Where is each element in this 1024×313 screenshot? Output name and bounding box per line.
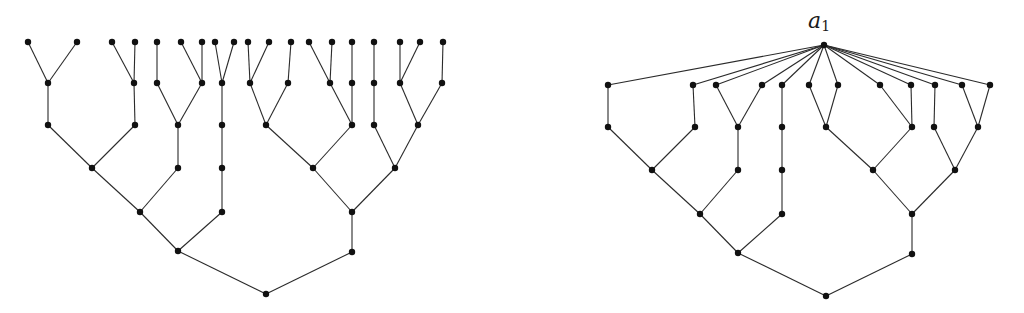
tree-node: [909, 211, 915, 217]
tree-edge: [222, 42, 234, 83]
tree-edge: [912, 170, 955, 214]
tree-edge: [700, 214, 738, 253]
tree-edge: [824, 45, 911, 85]
tree-node: [231, 39, 237, 45]
tree-edge: [716, 45, 824, 85]
tree-edge: [330, 42, 332, 83]
tree-diagram-canvas: [0, 0, 1024, 313]
tree-edge: [738, 253, 826, 296]
tree-edge: [266, 252, 352, 294]
tree-edge: [824, 45, 990, 85]
tree-node: [154, 39, 160, 45]
tree-edge: [608, 127, 652, 170]
tree-node: [89, 165, 95, 171]
tree-node: [175, 122, 181, 128]
tree-edge: [826, 254, 912, 296]
tree-node: [247, 80, 253, 86]
tree-edge: [313, 125, 352, 168]
tree-node: [349, 209, 355, 215]
tree-node: [932, 82, 938, 88]
tree-node: [310, 165, 316, 171]
tree-node: [823, 124, 829, 130]
root-label-letter: a: [808, 8, 821, 33]
tree-edge: [824, 45, 935, 85]
tree-node: [371, 39, 377, 45]
tree-node: [285, 80, 291, 86]
tree-edge: [955, 127, 978, 170]
tree-node: [263, 122, 269, 128]
tree-node: [779, 82, 785, 88]
root-label-a1: a1: [808, 10, 830, 33]
tree-node: [397, 80, 403, 86]
tree-edge: [313, 168, 352, 212]
tree-edge: [28, 42, 48, 83]
tree-edge: [215, 42, 222, 83]
tree-edge: [978, 85, 990, 127]
tree-edge: [693, 85, 695, 127]
tree-node: [870, 167, 876, 173]
tree-node: [392, 165, 398, 171]
tree-edge: [309, 42, 330, 83]
tree-node: [439, 80, 445, 86]
tree-node: [371, 122, 377, 128]
tree-edge: [48, 125, 92, 168]
tree-node: [175, 165, 181, 171]
tree-node: [713, 82, 719, 88]
tree-edge: [250, 83, 266, 125]
tree-node: [692, 124, 698, 130]
tree-edge: [809, 85, 826, 127]
tree-edge: [48, 42, 77, 83]
tree-node: [219, 165, 225, 171]
tree-node: [74, 39, 80, 45]
tree-node: [349, 80, 355, 86]
tree-edge: [652, 127, 695, 170]
tree-edge: [178, 212, 222, 251]
tree-node: [132, 122, 138, 128]
tree-node: [440, 39, 446, 45]
tree-edge: [824, 45, 880, 85]
tree-edge: [700, 170, 738, 214]
tree-node: [690, 82, 696, 88]
tree-edge: [934, 85, 935, 127]
tree-edge: [178, 83, 202, 125]
tree-edge: [400, 42, 420, 83]
tree-node: [779, 124, 785, 130]
tree-edge: [92, 168, 140, 212]
tree-edge: [140, 168, 178, 212]
tree-edge: [608, 45, 824, 85]
tree-node: [952, 167, 958, 173]
tree-node: [288, 39, 294, 45]
tree-edge: [178, 251, 266, 294]
tree-node: [909, 251, 915, 257]
tree-node: [137, 209, 143, 215]
tree-node: [371, 80, 377, 86]
tree-edge: [134, 42, 135, 83]
tree-node: [823, 293, 829, 299]
tree-node: [697, 211, 703, 217]
tree-node: [959, 82, 965, 88]
right-tree-nodes: [605, 42, 993, 299]
tree-node: [735, 250, 741, 256]
tree-edge: [738, 85, 762, 127]
tree-edge: [112, 42, 134, 83]
tree-node: [931, 124, 937, 130]
tree-node: [909, 124, 915, 130]
tree-node: [266, 39, 272, 45]
tree-edge: [442, 42, 443, 83]
tree-node: [199, 80, 205, 86]
tree-node: [779, 211, 785, 217]
tree-edge: [418, 83, 442, 125]
tree-node: [327, 80, 333, 86]
tree-edge: [140, 212, 178, 251]
tree-node: [735, 124, 741, 130]
tree-node: [109, 39, 115, 45]
tree-node: [245, 39, 251, 45]
tree-node: [219, 80, 225, 86]
tree-node: [877, 82, 883, 88]
tree-node: [212, 39, 218, 45]
tree-edge: [880, 85, 912, 127]
root-label-subscript: 1: [821, 18, 830, 34]
right-tree-edges: [608, 45, 990, 296]
tree-node: [329, 39, 335, 45]
tree-edge: [266, 83, 288, 125]
